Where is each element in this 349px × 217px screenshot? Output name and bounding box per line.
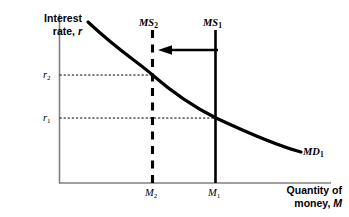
- x-axis-title: Quantity ofmoney, M: [252, 184, 342, 209]
- x-axis-title-variable: M: [333, 197, 342, 209]
- curve-label-ms2-base: MS: [139, 17, 154, 28]
- curve-label-md1-base: MD: [303, 146, 320, 157]
- tick-label-r1: r1: [43, 112, 51, 123]
- tick-label-r2: r2: [43, 69, 51, 80]
- money-demand-curve-md1: [88, 22, 301, 152]
- curve-label-ms2-subscript: 2: [154, 21, 158, 30]
- curve-label-ms1-base: MS: [203, 17, 218, 28]
- tick-label-m1-base: M: [208, 187, 217, 198]
- supply-shift-arrow: [158, 45, 218, 55]
- x-axis-title-line2: money,: [294, 197, 333, 209]
- curve-label-ms1-subscript: 1: [218, 21, 222, 30]
- tick-label-m2: M2: [145, 187, 157, 198]
- tick-label-m2-base: M: [145, 187, 154, 198]
- y-axis-title: Interestrate, r: [16, 12, 82, 37]
- y-axis-title-variable: r: [78, 25, 82, 37]
- y-axis-title-line2: rate,: [53, 25, 78, 37]
- curve-label-ms2: MS2: [139, 17, 158, 28]
- tick-label-r2-subscript: 2: [47, 74, 51, 82]
- tick-label-m2-subscript: 2: [154, 192, 158, 200]
- x-axis-title-line1: Quantity of: [287, 184, 342, 196]
- tick-label-m1-subscript: 1: [217, 192, 221, 200]
- curve-label-md1-subscript: 1: [320, 150, 324, 159]
- curve-label-md1: MD1: [303, 146, 324, 157]
- tick-label-r1-subscript: 1: [47, 117, 51, 125]
- curve-label-ms1: MS1: [203, 17, 222, 28]
- y-axis-title-line1: Interest: [44, 12, 82, 24]
- tick-label-m1: M1: [208, 187, 220, 198]
- money-market-diagram: Interestrate, r Quantity ofmoney, M r2 r…: [0, 0, 349, 217]
